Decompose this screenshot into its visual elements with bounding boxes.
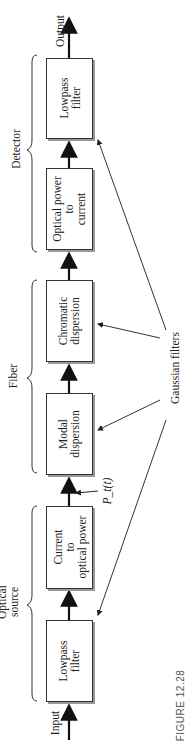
block-text: current xyxy=(75,169,87,249)
modal-dispersion-block: Modal dispersion xyxy=(46,393,93,475)
input-label: Input xyxy=(49,708,61,738)
optical-power-to-current-block: Optical power to current xyxy=(46,168,93,250)
chromatic-dispersion-block: Chromatic dispersion xyxy=(46,280,93,362)
block-text: dispersion xyxy=(69,394,81,474)
gaussian-filters-label: Gaussian filters xyxy=(169,328,181,408)
block-text: Chromatic xyxy=(57,281,69,361)
detector-lowpass-filter-block: Lowpass filter xyxy=(46,58,93,139)
block-text: Current xyxy=(52,507,64,588)
block-text: optical power xyxy=(76,507,88,588)
fiber-group-label: Fiber xyxy=(7,361,19,391)
diagram-lines xyxy=(0,0,192,745)
group-label-line: source xyxy=(8,582,20,622)
block-text: to xyxy=(63,169,75,249)
block-text: to xyxy=(64,507,76,588)
signal-label: P_t(t) xyxy=(101,476,113,506)
source-lowpass-filter-block: Lowpass filter xyxy=(46,620,93,702)
block-text: Optical power xyxy=(51,169,63,249)
block-text: Modal xyxy=(57,394,69,474)
block-text: dispersion xyxy=(69,281,81,361)
block-text: filter xyxy=(70,59,82,138)
group-label-line: Optical xyxy=(0,582,8,622)
block-text: Lowpass xyxy=(58,59,70,138)
figure-caption: FIGURE 12.28 xyxy=(175,666,186,745)
current-to-optical-power-block: Current to optical power xyxy=(46,506,93,589)
block-text: Lowpass xyxy=(57,621,69,701)
optical-source-group-label: Optical source xyxy=(0,582,20,622)
detector-group-label: Detector xyxy=(10,127,22,171)
block-text: filter xyxy=(69,621,81,701)
output-label: Output xyxy=(54,13,66,49)
